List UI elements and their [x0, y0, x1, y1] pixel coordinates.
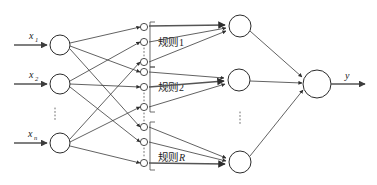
rule-nodes: [228, 15, 251, 173]
edge-x1-m7: [70, 49, 140, 127]
edge-ruleR-output: [250, 90, 303, 156]
edge-m2-rule1: [149, 28, 226, 42]
membership-node-R-2: [140, 138, 147, 145]
membership-node-R-1: [140, 123, 147, 130]
input-label-xn-subscript: n: [34, 134, 37, 141]
edge-rule2-output: [250, 81, 302, 83]
rule-node-R: [229, 151, 251, 173]
rule-label-1-index: 1: [179, 37, 184, 48]
rule-node-2: [228, 69, 250, 91]
input-to-membership-edges: [70, 27, 140, 163]
input-labels: x 1 x 2 x n: [27, 30, 39, 141]
output-node: [303, 70, 331, 98]
edge-m4-rule2: [149, 72, 224, 78]
input-label-x2-base: x: [28, 69, 34, 80]
rule-node-1: [229, 15, 251, 37]
rule-label-R-text: 规则: [158, 151, 178, 163]
output-label-y: y: [344, 70, 350, 81]
membership-nodes: [140, 23, 147, 166]
edge-x1-m4: [70, 46, 140, 72]
membership-node-1-1: [140, 23, 147, 30]
rule-label-2-text: 规则: [158, 81, 178, 93]
edge-rule1-output: [250, 31, 302, 77]
edge-m9-ruleR: [149, 163, 225, 164]
edge-xn-m6: [70, 107, 140, 142]
input-label-xn-base: x: [27, 128, 33, 139]
edge-x1-m1: [70, 27, 140, 43]
membership-node-2-2: [140, 83, 147, 90]
edge-xn-m3: [70, 62, 140, 139]
network-diagram-canvas: x 1 x 2 x n: [0, 0, 377, 185]
network-diagram-figure: x 1 x 2 x n: [0, 0, 377, 185]
input-node-x1: [50, 35, 70, 55]
input-node-x2: [50, 74, 70, 94]
rule-label-1-text: 规则: [158, 36, 178, 48]
edge-x2-m8: [70, 87, 140, 142]
input-nodes: [50, 35, 70, 153]
edge-m1-rule1: [149, 25, 225, 26]
membership-node-R-3: [140, 159, 147, 166]
input-node-xn: [50, 133, 70, 153]
edge-xn-m9: [70, 146, 140, 163]
rule-labels: 规则 1 规则 2 规则 R: [158, 36, 185, 163]
membership-node-1-2: [140, 38, 147, 45]
rule-to-output-edges: [250, 31, 303, 156]
input-label-x1-subscript: 1: [35, 36, 38, 43]
output-node-group: y: [303, 70, 365, 98]
input-label-x2-subscript: 2: [35, 75, 39, 82]
membership-node-2-3: [140, 103, 147, 110]
rule-label-R-index: R: [178, 152, 185, 163]
membership-node-2-1: [140, 68, 147, 75]
edge-x2-m5: [70, 84, 140, 87]
rule-group-brackets: [150, 22, 155, 170]
edge-x2-m2: [70, 42, 140, 81]
input-label-x1-base: x: [28, 30, 34, 41]
membership-node-1-3: [140, 58, 147, 65]
